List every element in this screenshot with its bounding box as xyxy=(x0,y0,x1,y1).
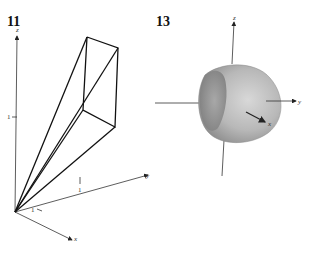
y-axis-label-13: y xyxy=(297,98,302,106)
y-tick-label: 1 xyxy=(78,186,82,194)
z-axis xyxy=(15,36,17,212)
x-tick-label: 1 xyxy=(31,206,35,214)
x-axis-label: x xyxy=(73,235,78,243)
z-axis-label-13: z xyxy=(232,14,236,22)
z-tick-label: 1 xyxy=(7,113,11,121)
y-axis-label: y xyxy=(145,172,150,180)
figure-13: z y x xyxy=(155,14,302,176)
wireframe-solid xyxy=(15,37,118,212)
figure-11: z 1 y 1 x 1 xyxy=(7,26,150,243)
figure-canvas: z 1 y 1 x 1 z y xyxy=(0,0,311,253)
z-axis-label: z xyxy=(15,26,19,34)
z-axis-13 xyxy=(232,22,234,64)
x-axis xyxy=(15,212,72,240)
